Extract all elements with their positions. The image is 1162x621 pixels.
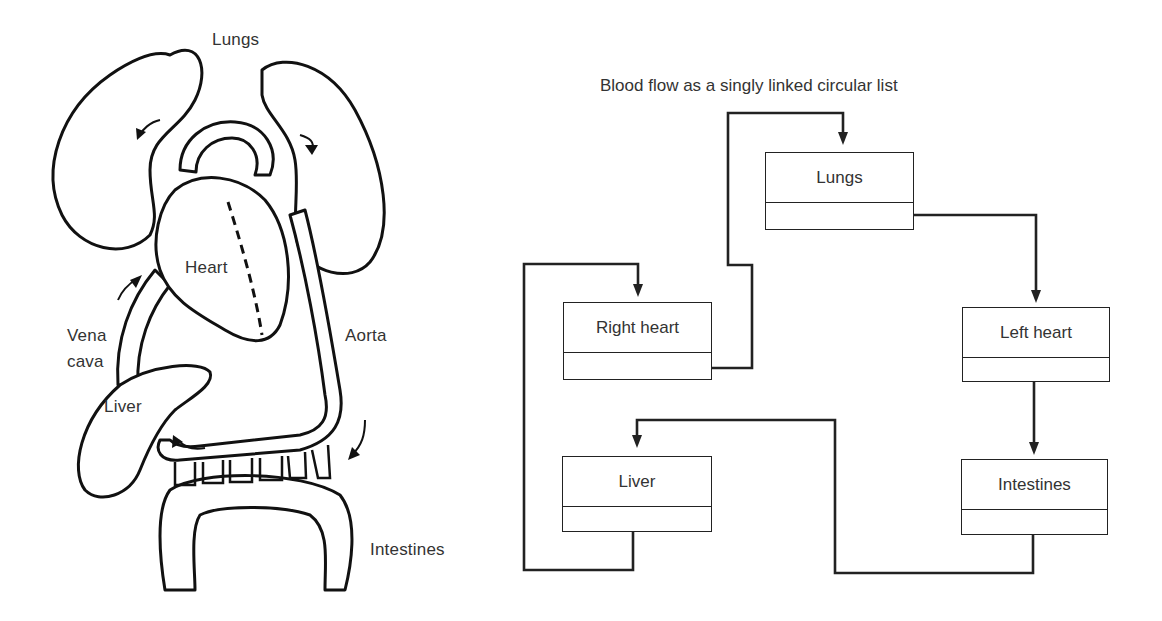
- node-lungs: Lungs: [765, 152, 914, 230]
- node-lungs-next-pointer: [766, 203, 913, 227]
- node-right-heart-next-pointer: [564, 353, 711, 377]
- node-right-heart: Right heart: [563, 302, 712, 380]
- node-right-heart-data: Right heart: [564, 303, 711, 353]
- node-intestines-data: Intestines: [962, 460, 1107, 510]
- node-intestines-next-pointer: [962, 510, 1107, 534]
- node-liver-next-pointer: [563, 507, 711, 531]
- node-liver-data: Liver: [563, 457, 711, 507]
- node-liver: Liver: [562, 456, 712, 532]
- node-intestines: Intestines: [961, 459, 1108, 535]
- node-left-heart: Left heart: [962, 307, 1110, 382]
- node-lungs-data: Lungs: [766, 153, 913, 203]
- node-left-heart-next-pointer: [963, 358, 1109, 382]
- node-left-heart-data: Left heart: [963, 308, 1109, 358]
